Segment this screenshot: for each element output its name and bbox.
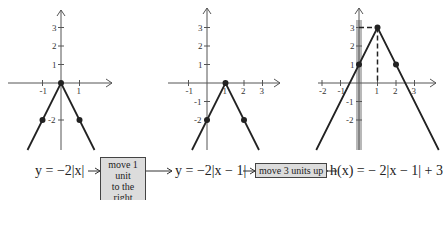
y-tick-label: 1 — [198, 60, 203, 70]
equation-final: h(x) = − 2|x − 1| + 3 — [330, 163, 443, 179]
data-point — [356, 62, 362, 68]
y-tick-label: -2 — [346, 115, 354, 125]
x-tick-label: -1 — [40, 86, 48, 96]
equation-base: y = −2|x| — [35, 163, 84, 179]
x-tick-label: 3 — [260, 86, 265, 96]
step-box-right: move 1 unit to the right — [100, 157, 146, 200]
y-tick-label: 3 — [350, 23, 355, 33]
step-label-line1: move 1 unit — [104, 159, 142, 181]
data-point — [204, 117, 210, 123]
x-tick-label: -1 — [186, 86, 194, 96]
y-tick-label: 2 — [350, 41, 355, 51]
y-tick-label: 2 — [198, 41, 203, 51]
data-point — [223, 80, 229, 86]
data-point — [375, 25, 381, 31]
step-box-up: move 3 units up — [255, 163, 327, 178]
x-tick-label: 1 — [375, 86, 380, 96]
y-tick-label: 1 — [52, 60, 57, 70]
y-tick-label: 1 — [350, 60, 355, 70]
data-point — [58, 80, 64, 86]
y-tick-label: -1 — [346, 97, 354, 107]
x-tick-label: 3 — [412, 86, 417, 96]
x-tick-label: -2 — [319, 86, 327, 96]
x-tick-label: 1 — [77, 86, 82, 96]
data-point — [77, 117, 83, 123]
data-point — [241, 117, 247, 123]
x-tick-label: 2 — [393, 86, 398, 96]
y-tick-label: 2 — [52, 41, 57, 51]
y-tick-label: -2 — [48, 115, 56, 125]
data-point — [393, 62, 399, 68]
x-tick-label: 2 — [241, 86, 246, 96]
data-point — [40, 117, 46, 123]
y-tick-label: -1 — [194, 97, 202, 107]
y-tick-label: 3 — [52, 23, 57, 33]
y-tick-label: 3 — [198, 23, 203, 33]
step-label-line2: to the right — [104, 181, 142, 200]
y-tick-label: -2 — [194, 115, 202, 125]
equation-shift-right: y = −2|x − 1| — [175, 163, 246, 179]
